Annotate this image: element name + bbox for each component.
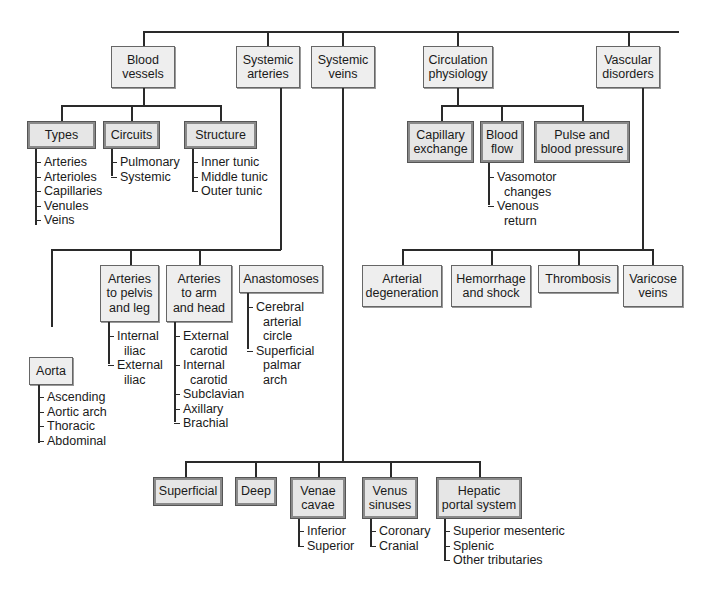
list-item: Other tributaries (444, 553, 565, 568)
venae-cavae-list: Inferior Superior (298, 524, 354, 553)
connector (185, 461, 187, 477)
list-item: Abdominal (38, 434, 107, 449)
connector (61, 105, 63, 122)
connector (457, 31, 459, 47)
connector (51, 249, 53, 327)
list-item: Thoracic (38, 419, 107, 434)
list-item: Pulmonary (111, 155, 180, 170)
subtopic-varicose-veins: Varicose veins (623, 265, 683, 307)
connector (280, 88, 282, 250)
connector (131, 105, 133, 122)
pelvis-leg-list: Internal iliac External iliac (108, 329, 163, 387)
subtopic-venus-sinuses: Venus sinuses (362, 477, 418, 519)
list-item: Superior mesenteric (444, 524, 565, 539)
list-item: External iliac (108, 358, 163, 387)
connector (318, 461, 320, 477)
list-item: Internal iliac (108, 329, 163, 358)
list-item: Splenic (444, 539, 565, 554)
list-item: Ascending (38, 390, 107, 405)
venus-sinuses-list: Coronary Cranial (370, 524, 430, 553)
list-item: Outer tunic (192, 184, 268, 199)
connector (130, 249, 132, 265)
connector (51, 249, 281, 251)
subtopic-capillary-exchange: Capillary exchange (407, 121, 474, 163)
connector (143, 31, 679, 33)
connector (199, 249, 201, 265)
connector (61, 105, 221, 107)
list-item: External carotid (174, 329, 244, 358)
hepatic-portal-list: Superior mesenteric Splenic Other tribut… (444, 524, 565, 568)
connector (402, 249, 404, 265)
connector (578, 249, 580, 265)
connector (143, 31, 145, 47)
types-list: Arteries Arterioles Capillaries Venules … (35, 155, 102, 228)
list-item: Systemic (111, 170, 180, 185)
list-item: Arteries (35, 155, 102, 170)
list-item: Capillaries (35, 184, 102, 199)
subtopic-pulse-blood-pressure: Pulse and blood pressure (534, 121, 630, 163)
list-item: Coronary (370, 524, 430, 539)
connector (479, 461, 481, 477)
circuits-list: Pulmonary Systemic (111, 155, 180, 184)
connector (582, 105, 584, 122)
connector (501, 105, 503, 122)
anastomoses-list: Cerebral arterial circle Superficial pal… (247, 300, 314, 387)
topic-vascular-disorders: Vascular disorders (596, 46, 660, 88)
aorta-list: Ascending Aortic arch Thoracic Abdominal (38, 390, 107, 448)
topic-circulation-physiology: Circulation physiology (423, 46, 493, 88)
list-item: Cranial (370, 539, 430, 554)
list-item: Inferior (298, 524, 354, 539)
connector (143, 88, 145, 106)
subtopic-deep-veins: Deep (235, 477, 277, 506)
connector (220, 105, 222, 122)
connector (652, 249, 654, 265)
list-item: Axillary (174, 402, 244, 417)
list-item: Venous return (488, 199, 557, 228)
list-item: Cerebral arterial circle (247, 300, 314, 344)
connector (342, 31, 344, 47)
connector (628, 31, 630, 47)
connector (642, 88, 644, 250)
list-item: Aortic arch (38, 405, 107, 420)
blood-flow-list: Vasomotor changes Venous return (488, 170, 557, 228)
connector (390, 461, 392, 477)
arm-head-list: External carotid Internal carotid Subcla… (174, 329, 244, 431)
list-item: Superficial palmar arch (247, 344, 314, 388)
subtopic-arterial-degeneration: Arterial degeneration (362, 265, 442, 307)
list-item: Middle tunic (192, 170, 268, 185)
subtopic-thrombosis: Thrombosis (538, 265, 618, 293)
connector (402, 249, 652, 251)
subtopic-superficial-veins: Superficial (153, 477, 223, 506)
connector (185, 461, 480, 463)
list-item: Internal carotid (174, 358, 244, 387)
list-item: Brachial (174, 416, 244, 431)
topic-systemic-arteries: Systemic arteries (236, 46, 300, 88)
list-item: Superior (298, 539, 354, 554)
connector (441, 105, 443, 122)
connector (342, 88, 344, 461)
connector (255, 461, 257, 477)
list-item: Inner tunic (192, 155, 268, 170)
list-item: Veins (35, 213, 102, 228)
connector (441, 105, 583, 107)
connector (267, 31, 269, 47)
subtopic-arteries-arm-head: Arteries to arm and head (166, 265, 232, 322)
structure-list: Inner tunic Middle tunic Outer tunic (192, 155, 268, 199)
subtopic-anastomoses: Anastomoses (239, 265, 323, 293)
subtopic-arteries-pelvis-leg: Arteries to pelvis and leg (100, 265, 159, 322)
subtopic-blood-flow: Blood flow (480, 121, 524, 163)
subtopic-structure: Structure (184, 121, 257, 149)
subtopic-hepatic-portal-system: Hepatic portal system (436, 477, 522, 519)
connector (457, 88, 459, 106)
topic-systemic-veins: Systemic veins (311, 46, 375, 88)
list-item: Subclavian (174, 387, 244, 402)
list-item: Venules (35, 199, 102, 214)
list-item: Arterioles (35, 170, 102, 185)
subtopic-circuits: Circuits (103, 121, 160, 149)
list-item: Vasomotor changes (488, 170, 557, 199)
subtopic-hemorrhage-shock: Hemorrhage and shock (451, 265, 531, 307)
subtopic-aorta: Aorta (29, 357, 73, 385)
subtopic-types: Types (27, 121, 96, 149)
topic-blood-vessels: Blood vessels (111, 46, 175, 88)
subtopic-venae-cavae: Venae cavae (290, 477, 346, 519)
